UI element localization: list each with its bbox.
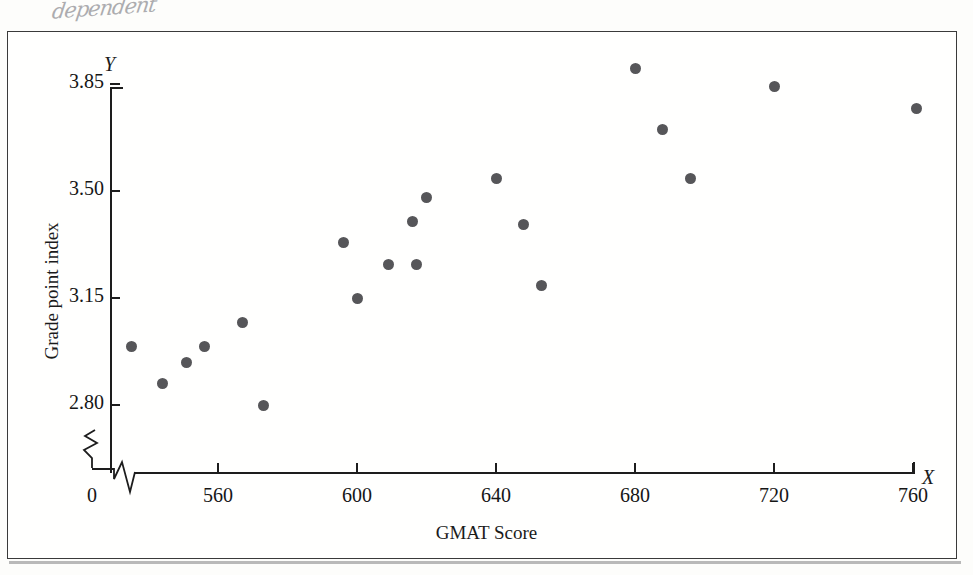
page-frame-shadow (9, 561, 961, 564)
figure-frame (7, 31, 957, 559)
handwritten-annotation: dependent (50, 0, 157, 24)
